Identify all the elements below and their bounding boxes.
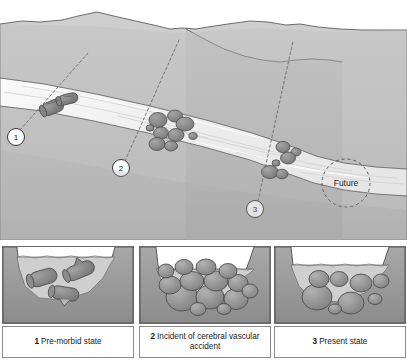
- marker-1-label: 1: [14, 133, 19, 142]
- panel2-number: 2: [151, 332, 156, 341]
- panel3-caption: 3 Present state: [274, 326, 406, 358]
- figure-root: Future 1 2 3: [0, 0, 407, 360]
- panel2-caption: 2Incident of cerebral vascular accident: [139, 326, 271, 358]
- panel2-caption-text: Incident of cerebral vascular accident: [157, 332, 259, 352]
- panel-present[interactable]: 3 Present state: [274, 246, 406, 358]
- panel-premorbid[interactable]: 1 Pre-morbid state: [2, 246, 134, 358]
- panel1-caption-text: Pre-morbid state: [41, 337, 102, 348]
- panel3-number: 3: [313, 337, 318, 348]
- panel-incident[interactable]: 2Incident of cerebral vascular accident: [139, 246, 271, 358]
- marker-1[interactable]: 1: [8, 129, 25, 146]
- panel1-number: 1: [34, 337, 39, 348]
- cross-section-incident: [139, 246, 271, 324]
- panel-strip: 1 Pre-morbid state: [0, 246, 407, 360]
- main-scene: Future 1 2 3: [0, 0, 407, 240]
- cross-section-premorbid: [2, 246, 134, 324]
- panel3-caption-text: Present state: [319, 337, 367, 348]
- future-zone-label: Future: [334, 178, 359, 188]
- panel1-caption: 1 Pre-morbid state: [2, 326, 134, 358]
- cross-section-present: [274, 246, 406, 324]
